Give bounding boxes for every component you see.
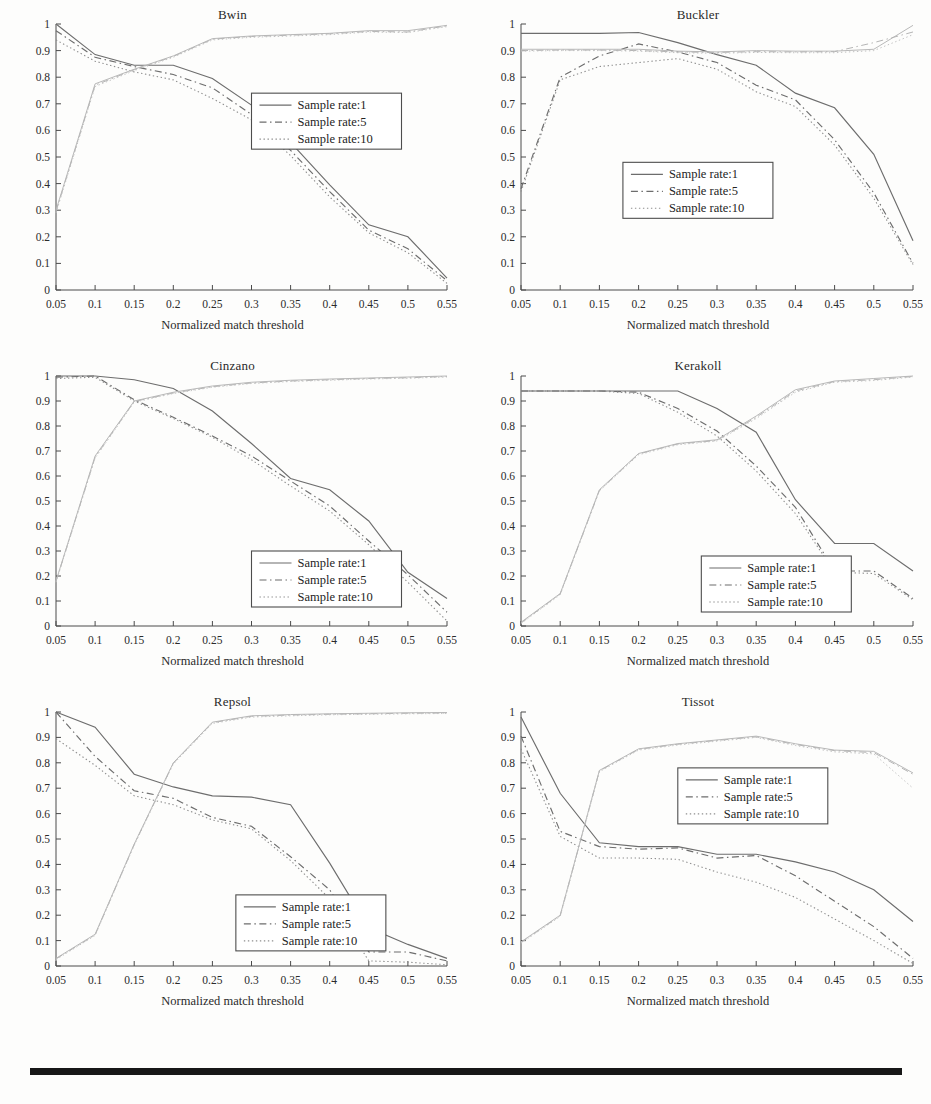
legend-label: Sample rate:5 — [298, 573, 367, 587]
y-tick-label: 0.4 — [501, 178, 516, 190]
y-tick-label: 0.9 — [501, 395, 516, 407]
x-tick-label: 0.35 — [746, 298, 766, 310]
x-tick-label: 0.3 — [710, 634, 725, 646]
y-tick-label: 0.2 — [36, 570, 51, 582]
series-line — [521, 59, 913, 265]
x-tick-label: 0.4 — [323, 298, 338, 310]
x-tick-label: 0.1 — [88, 634, 103, 646]
y-tick-label: 0.8 — [501, 420, 516, 432]
chart-legend: Sample rate:1Sample rate:5Sample rate:10 — [252, 551, 402, 607]
x-tick-label: 0.45 — [359, 634, 379, 646]
x-tick-label: 0.25 — [202, 298, 222, 310]
chart-panel-bwin: Bwin00.10.20.30.40.50.60.70.80.910.050.1… — [0, 0, 465, 352]
x-tick-label: 0.5 — [401, 974, 416, 986]
x-tick-label: 0.5 — [867, 974, 882, 986]
y-tick-label: 0.2 — [501, 570, 516, 582]
series-line — [521, 44, 913, 263]
x-tick-label: 0.45 — [825, 634, 845, 646]
y-tick-label: 0.3 — [501, 545, 516, 557]
plot-area: 00.10.20.30.40.50.60.70.80.910.050.10.15… — [0, 352, 465, 688]
x-tick-label: 0.4 — [788, 298, 803, 310]
x-tick-label: 0.05 — [511, 634, 531, 646]
plot-area: 00.10.20.30.40.50.60.70.80.910.050.10.15… — [465, 0, 931, 352]
axis-lines — [56, 24, 447, 290]
y-tick-label: 0.7 — [501, 98, 516, 110]
x-tick-label: 0.05 — [46, 634, 66, 646]
page-rule-divider — [30, 1068, 902, 1075]
axis-lines — [521, 24, 913, 290]
y-tick-label: 0.4 — [501, 858, 516, 870]
y-tick-label: 0.8 — [36, 420, 51, 432]
x-tick-label: 0.5 — [401, 634, 416, 646]
y-tick-label: 0.5 — [36, 833, 51, 845]
x-tick-label: 0.4 — [788, 974, 803, 986]
x-tick-label: 0.4 — [788, 634, 803, 646]
chart-legend: Sample rate:1Sample rate:5Sample rate:10 — [252, 93, 402, 149]
x-tick-label: 0.15 — [589, 298, 609, 310]
y-tick-label: 0.6 — [36, 470, 51, 482]
x-tick-label: 0.3 — [244, 634, 259, 646]
legend-label: Sample rate:1 — [282, 900, 351, 914]
y-tick-label: 0.7 — [36, 445, 51, 457]
x-tick-label: 0.3 — [710, 298, 725, 310]
y-tick-label: 0 — [509, 284, 515, 296]
y-tick-label: 0 — [509, 960, 515, 972]
legend-label: Sample rate:5 — [724, 790, 793, 804]
legend-label: Sample rate:10 — [298, 132, 373, 146]
x-tick-label: 0.05 — [511, 974, 531, 986]
x-tick-label: 0.4 — [323, 974, 338, 986]
legend-label: Sample rate:5 — [669, 184, 738, 198]
legend-label: Sample rate:10 — [282, 934, 357, 948]
y-tick-label: 0.7 — [36, 98, 51, 110]
legend-label: Sample rate:1 — [747, 561, 816, 575]
y-tick-label: 0.6 — [36, 808, 51, 820]
plot-area: 00.10.20.30.40.50.60.70.80.910.050.10.15… — [465, 688, 931, 1028]
y-tick-label: 0.5 — [36, 151, 51, 163]
y-tick-label: 0.7 — [501, 782, 516, 794]
y-tick-label: 0.8 — [501, 71, 516, 83]
chart-panel-buckler: Buckler00.10.20.30.40.50.60.70.80.910.05… — [465, 0, 931, 352]
x-tick-label: 0.25 — [202, 974, 222, 986]
x-tick-label: 0.25 — [668, 634, 688, 646]
x-axis-label: Normalized match threshold — [465, 994, 931, 1009]
x-tick-label: 0.1 — [553, 298, 568, 310]
y-tick-label: 0.2 — [36, 909, 51, 921]
x-tick-label: 0.5 — [867, 298, 882, 310]
y-tick-label: 0.1 — [36, 935, 51, 947]
x-tick-label: 0.2 — [166, 974, 181, 986]
series-line — [521, 391, 913, 571]
x-tick-label: 0.3 — [244, 298, 259, 310]
chart-legend: Sample rate:1Sample rate:5Sample rate:10 — [701, 556, 851, 612]
y-tick-label: 0.4 — [501, 520, 516, 532]
y-tick-label: 0.2 — [501, 231, 516, 243]
y-tick-label: 0.6 — [501, 470, 516, 482]
legend-label: Sample rate:1 — [669, 167, 738, 181]
x-tick-label: 0.1 — [88, 974, 103, 986]
panel-title: Kerakoll — [465, 358, 931, 374]
y-tick-label: 0.2 — [36, 231, 51, 243]
x-tick-label: 0.1 — [553, 974, 568, 986]
x-tick-label: 0.2 — [166, 634, 181, 646]
x-tick-label: 0.2 — [631, 634, 646, 646]
y-tick-label: 0 — [44, 284, 50, 296]
x-tick-label: 0.5 — [401, 298, 416, 310]
x-tick-label: 0.3 — [710, 974, 725, 986]
y-tick-label: 0.7 — [501, 445, 516, 457]
panel-title: Buckler — [465, 7, 931, 23]
x-tick-label: 0.05 — [46, 974, 66, 986]
x-axis-label: Normalized match threshold — [0, 654, 465, 669]
x-tick-label: 0.2 — [631, 298, 646, 310]
series-line — [56, 376, 447, 581]
y-tick-label: 0.5 — [501, 495, 516, 507]
y-tick-label: 0.1 — [36, 257, 51, 269]
y-tick-label: 0.1 — [36, 595, 51, 607]
y-tick-label: 0.6 — [36, 124, 51, 136]
x-tick-label: 0.15 — [589, 974, 609, 986]
x-tick-label: 0.45 — [825, 298, 845, 310]
x-tick-label: 0.25 — [668, 298, 688, 310]
y-tick-label: 0.4 — [36, 178, 51, 190]
y-tick-label: 0.8 — [36, 757, 51, 769]
legend-label: Sample rate:1 — [298, 556, 367, 570]
y-tick-label: 0.9 — [36, 731, 51, 743]
x-axis-label: Normalized match threshold — [465, 654, 931, 669]
